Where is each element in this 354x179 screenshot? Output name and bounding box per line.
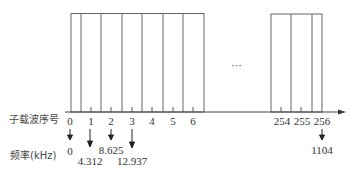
tick-label: 2 [108,115,114,127]
tick-label: 6 [190,115,196,127]
axis-arrow-icon [338,110,346,115]
tick-label: 4 [149,115,155,127]
tick-label: 5 [170,115,176,127]
tick-label: 3 [129,115,135,127]
tick-label: 256 [314,115,331,127]
subcarrier-index-label: 子载波序号 [9,114,59,126]
tick-label: 255 [294,115,311,127]
subcarrier-bins-left [71,14,204,113]
frequency-label: 频率(kHz) [10,150,56,162]
frequency-value: 1104 [311,144,333,156]
ellipsis: ··· [231,59,242,71]
tick-label: 254 [274,115,291,127]
frequency-value: 4.312 [78,155,103,167]
tick-label: 0 [67,115,73,127]
frequency-value: 12.937 [117,155,147,167]
subcarrier-bins-right [271,14,322,112]
tick-label: 1 [88,115,94,127]
frequency-value: 0 [67,145,73,157]
